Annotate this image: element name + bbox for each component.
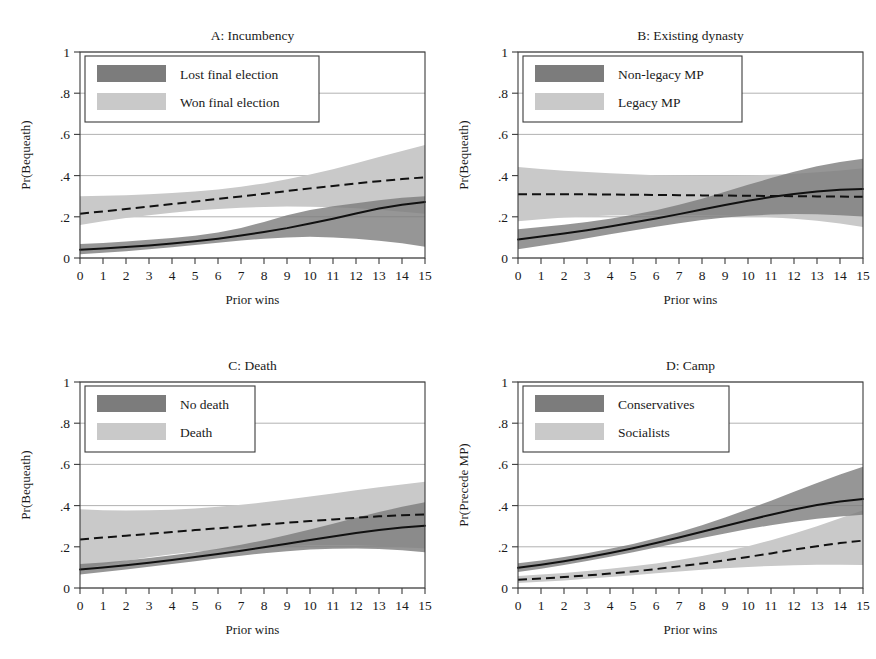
legend-swatch (535, 93, 604, 110)
x-tick-label: 13 (810, 598, 824, 613)
legend-swatch (535, 65, 604, 82)
x-tick-label: 10 (303, 598, 317, 613)
y-tick-label: .8 (60, 416, 70, 431)
x-tick-label: 6 (653, 268, 660, 283)
y-tick-label: 1 (501, 375, 508, 390)
x-tick-label: 3 (584, 268, 591, 283)
x-axis-label: Prior wins (664, 292, 718, 307)
y-tick-label: .4 (498, 169, 508, 184)
x-tick-label: 7 (676, 598, 683, 613)
y-axis-label: Pr(Bequeath) (456, 120, 471, 189)
x-tick-label: 8 (699, 268, 706, 283)
x-axis-label: Prior wins (226, 622, 280, 637)
x-axis-label: Prior wins (226, 292, 280, 307)
x-axis-label: Prior wins (664, 622, 718, 637)
x-tick-label: 8 (261, 268, 268, 283)
x-tick-label: 5 (630, 268, 637, 283)
x-tick-label: 15 (856, 268, 870, 283)
x-tick-label: 0 (515, 598, 522, 613)
x-tick-label: 14 (395, 268, 409, 283)
x-tick-label: 14 (833, 268, 847, 283)
legend-label: Won final election (180, 95, 280, 110)
x-tick-label: 9 (284, 598, 291, 613)
y-tick-label: .6 (60, 457, 70, 472)
x-tick-label: 14 (833, 598, 847, 613)
x-tick-label: 3 (146, 598, 153, 613)
x-tick-label: 13 (372, 268, 386, 283)
x-tick-label: 7 (676, 268, 683, 283)
x-tick-label: 10 (741, 598, 755, 613)
y-tick-label: 0 (63, 581, 70, 596)
x-tick-label: 6 (215, 598, 222, 613)
x-tick-label: 10 (741, 268, 755, 283)
legend-swatch (97, 65, 166, 82)
y-tick-label: .8 (498, 416, 508, 431)
x-tick-label: 1 (538, 598, 545, 613)
x-tick-label: 1 (538, 268, 545, 283)
x-tick-label: 5 (192, 268, 199, 283)
x-tick-label: 3 (146, 268, 153, 283)
x-tick-label: 2 (123, 598, 130, 613)
x-tick-label: 4 (607, 268, 614, 283)
y-tick-label: .6 (60, 127, 70, 142)
x-tick-label: 12 (349, 598, 363, 613)
panel-title: A: Incumbency (211, 28, 295, 43)
x-tick-label: 14 (395, 598, 409, 613)
x-tick-label: 7 (238, 268, 245, 283)
y-tick-label: .6 (498, 127, 508, 142)
panel-c-death: C: Death0.2.4.6.810123456789101112131415… (0, 330, 438, 659)
x-tick-label: 8 (699, 598, 706, 613)
x-tick-label: 11 (765, 598, 778, 613)
x-tick-label: 9 (722, 598, 729, 613)
panel-title: D: Camp (666, 358, 715, 373)
x-tick-label: 6 (215, 268, 222, 283)
x-tick-label: 12 (787, 268, 801, 283)
legend-label: Conservatives (618, 397, 695, 412)
x-tick-label: 5 (630, 598, 637, 613)
x-tick-label: 0 (77, 598, 84, 613)
x-tick-label: 2 (123, 268, 130, 283)
x-tick-label: 12 (787, 598, 801, 613)
x-tick-label: 12 (349, 268, 363, 283)
x-tick-label: 4 (607, 598, 614, 613)
y-tick-label: .4 (60, 169, 70, 184)
legend-label: Non-legacy MP (618, 67, 704, 82)
legend-label: Death (180, 425, 212, 440)
y-tick-label: .2 (498, 540, 508, 555)
x-tick-label: 15 (418, 268, 432, 283)
x-tick-label: 9 (722, 268, 729, 283)
x-tick-label: 11 (327, 268, 340, 283)
legend-label: Lost final election (180, 67, 278, 82)
legend-swatch (97, 93, 166, 110)
x-tick-label: 2 (561, 268, 568, 283)
x-tick-label: 7 (238, 598, 245, 613)
x-tick-label: 11 (327, 598, 340, 613)
y-tick-label: .2 (60, 540, 70, 555)
y-tick-label: .6 (498, 457, 508, 472)
x-tick-label: 3 (584, 598, 591, 613)
legend-label: No death (180, 397, 229, 412)
x-tick-label: 0 (515, 268, 522, 283)
panel-title: B: Existing dynasty (637, 28, 744, 43)
x-tick-label: 1 (100, 268, 107, 283)
y-tick-label: 1 (63, 45, 70, 60)
x-tick-label: 15 (418, 598, 432, 613)
y-axis-label: Pr(Precede MP) (456, 443, 471, 526)
x-tick-label: 6 (653, 598, 660, 613)
x-tick-label: 8 (261, 598, 268, 613)
y-tick-label: 0 (63, 251, 70, 266)
x-tick-label: 10 (303, 268, 317, 283)
x-tick-label: 13 (372, 598, 386, 613)
y-axis-label: Pr(Bequeath) (18, 450, 33, 519)
figure-four-panel-predicted-probabilities: A: Incumbency0.2.4.6.8101234567891011121… (0, 0, 876, 659)
x-tick-label: 4 (169, 598, 176, 613)
y-tick-label: .4 (498, 499, 508, 514)
x-tick-label: 5 (192, 598, 199, 613)
legend-label: Socialists (618, 425, 670, 440)
x-tick-label: 0 (77, 268, 84, 283)
y-tick-label: .4 (60, 499, 70, 514)
y-axis-label: Pr(Bequeath) (18, 120, 33, 189)
x-tick-label: 9 (284, 268, 291, 283)
y-tick-label: .8 (498, 86, 508, 101)
legend-label: Legacy MP (618, 95, 681, 110)
